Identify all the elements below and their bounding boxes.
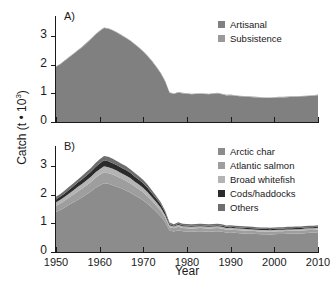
legend-swatch-icon [218, 190, 225, 197]
x-tick [187, 247, 188, 253]
x-tick [56, 117, 57, 123]
legend-swatch-icon [218, 148, 225, 155]
x-tick [143, 247, 144, 253]
y-tick-label: 0 [40, 114, 47, 126]
y-tick: 2 [51, 65, 56, 66]
legend-label: Arctic char [230, 147, 275, 157]
x-tick [318, 117, 319, 123]
y-tick: 3 [51, 166, 56, 167]
x-tick [187, 117, 188, 123]
legend-item: Atlantic salmon [218, 160, 295, 171]
panel-b-label: B) [64, 140, 75, 152]
fisheries-catch-figure: Catch (t • 103) A) 0123 B) 0123195019601… [0, 0, 330, 285]
y-tick-label: 2 [40, 187, 47, 199]
y-tick: 2 [51, 195, 56, 196]
x-tick [318, 247, 319, 253]
x-tick [274, 247, 275, 253]
legend-swatch-icon [218, 204, 225, 211]
x-tick [143, 117, 144, 123]
y-tick: 3 [51, 36, 56, 37]
legend-label: Subsistence [230, 34, 282, 44]
x-axis-title: Year [56, 264, 318, 278]
x-tick [231, 117, 232, 123]
panel-b-legend: Arctic charAtlantic salmonBroad whitefis… [218, 146, 295, 216]
y-tick-label: 1 [40, 85, 47, 97]
panel-a-legend: ArtisanalSubsistence [218, 19, 282, 47]
panel-a-y-axis-line [55, 16, 56, 123]
x-tick [231, 247, 232, 253]
legend-swatch-icon [218, 21, 225, 28]
x-tick [56, 247, 57, 253]
x-tick [100, 247, 101, 253]
y-tick-label: 3 [40, 158, 47, 170]
y-tick-label: 3 [40, 28, 47, 40]
y-tick: 1 [51, 223, 56, 224]
y-tick-label: 2 [40, 57, 47, 69]
legend-item: Broad whitefish [218, 174, 295, 185]
legend-label: Broad whitefish [230, 175, 295, 185]
legend-item: Cods/haddocks [218, 188, 295, 199]
panel-a-label: A) [64, 10, 75, 22]
legend-item: Arctic char [218, 146, 295, 157]
legend-item: Subsistence [218, 33, 282, 44]
x-tick [274, 117, 275, 123]
legend-item: Artisanal [218, 19, 282, 30]
legend-item: Others [218, 202, 295, 213]
legend-swatch-icon [218, 176, 225, 183]
legend-swatch-icon [218, 162, 225, 169]
y-tick-label: 1 [40, 215, 47, 227]
y-tick-label: 0 [40, 244, 47, 256]
x-tick [100, 117, 101, 123]
legend-swatch-icon [218, 35, 225, 42]
legend-label: Others [230, 203, 259, 213]
panel-b-y-axis-line [55, 146, 56, 253]
legend-label: Atlantic salmon [230, 161, 294, 171]
y-tick: 1 [51, 93, 56, 94]
legend-label: Cods/haddocks [230, 189, 295, 199]
legend-label: Artisanal [230, 20, 267, 30]
y-axis-title: Catch (t • 103) [14, 68, 29, 188]
